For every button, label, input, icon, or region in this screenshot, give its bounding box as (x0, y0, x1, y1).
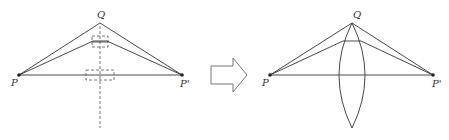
label-q: Q (97, 9, 105, 20)
label-p-prime: P' (179, 78, 189, 89)
ray-via-q (19, 23, 182, 75)
converging-lens (339, 23, 365, 128)
ray-via-upper (270, 41, 433, 75)
hollow-arrow-right-icon (211, 58, 247, 92)
point-p-prime (431, 73, 435, 77)
point-p (17, 73, 21, 77)
left-panel: P P' Q (10, 9, 189, 128)
ray-via-upper (19, 41, 182, 75)
point-p (268, 73, 272, 77)
label-p-prime: P' (431, 78, 441, 89)
label-p: P (261, 77, 269, 88)
transition-arrow (211, 58, 247, 92)
right-panel: P P' Q (261, 9, 441, 128)
label-p: P (10, 77, 18, 88)
fermat-lens-diagram: P P' Q P P' Q (0, 0, 449, 140)
ray-via-q (270, 23, 433, 75)
label-q: Q (353, 9, 361, 20)
point-p-prime (180, 73, 184, 77)
